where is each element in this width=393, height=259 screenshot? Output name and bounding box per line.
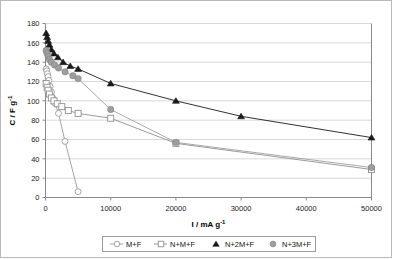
marker-open-circle (114, 241, 120, 247)
marker-open-square (59, 104, 65, 110)
axes (46, 24, 372, 198)
y-tick-label-20: 20 (31, 174, 39, 183)
marker-filled-circle (62, 69, 68, 75)
x-tick-label-0: 0 (43, 204, 47, 213)
y-axis-ticks: 020406080100120140160180 (27, 19, 46, 202)
y-tick-label-80: 80 (31, 116, 39, 125)
chart-legend[interactable]: M+FN+M+FN+2M+FN+3M+F (103, 237, 316, 252)
legend-label-N+2M+F: N+2M+F (225, 240, 255, 249)
y-tick-label-140: 140 (27, 58, 40, 67)
y-axis-title-exponent: -1 (7, 95, 13, 101)
y-axis-title-base: C / F g (8, 101, 17, 126)
marker-filled-triangle (75, 66, 82, 72)
legend-label-M+F: M+F (126, 240, 142, 249)
marker-filled-triangle (43, 30, 50, 36)
marker-filled-circle (75, 75, 81, 81)
x-axis-title-base: I / mA g (192, 220, 221, 229)
series-line-N+2M+F (46, 33, 371, 137)
y-tick-label-100: 100 (27, 97, 40, 106)
y-tick-label-160: 160 (27, 39, 40, 48)
marker-open-circle (75, 189, 81, 195)
y-tick-label-180: 180 (27, 19, 40, 28)
data-series (43, 30, 375, 195)
marker-open-square (75, 110, 81, 116)
marker-open-circle (62, 138, 68, 144)
marker-open-square (108, 115, 114, 121)
marker-filled-circle (270, 241, 276, 247)
y-tick-label-60: 60 (31, 135, 39, 144)
chart-frame: 020406080100120140160180 010000200003000… (0, 0, 392, 258)
x-tick-label-10000: 10000 (100, 204, 121, 213)
x-axis-title: I / mA g-1 (192, 219, 227, 229)
marker-filled-circle (368, 164, 374, 170)
y-tick-label-0: 0 (35, 193, 39, 202)
marker-open-square (158, 241, 164, 247)
legend-label-N+M+F: N+M+F (170, 240, 195, 249)
gridlines (46, 24, 372, 198)
legend-label-N+3M+F: N+3M+F (282, 240, 312, 249)
x-tick-label-30000: 30000 (231, 204, 252, 213)
marker-filled-circle (173, 139, 179, 145)
y-axis-title: C / F g-1 (7, 95, 17, 125)
marker-filled-triangle (67, 63, 74, 69)
x-tick-label-40000: 40000 (296, 204, 317, 213)
marker-filled-circle (55, 65, 61, 71)
x-tick-label-20000: 20000 (165, 204, 186, 213)
marker-open-circle (56, 110, 62, 116)
x-tick-label-50000: 50000 (361, 204, 382, 213)
series-N+2M+F (43, 30, 375, 140)
x-axis-ticks: 01000020000300004000050000 (43, 198, 382, 213)
marker-filled-circle (108, 106, 114, 112)
chart-canvas: 020406080100120140160180 010000200003000… (1, 1, 393, 259)
marker-open-square (65, 108, 71, 114)
x-axis-title-exponent: -1 (220, 219, 226, 225)
series-line-N+M+F (46, 83, 371, 169)
y-tick-label-120: 120 (27, 77, 40, 86)
y-tick-label-40: 40 (31, 155, 39, 164)
